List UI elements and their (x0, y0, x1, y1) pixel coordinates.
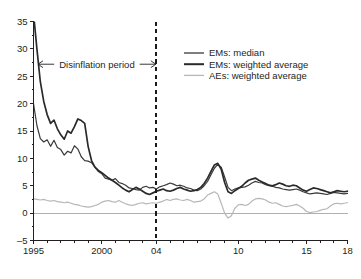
x-tick-label: 18 (342, 245, 353, 256)
x-tick-label: 15 (301, 245, 312, 256)
y-tick-label: 30 (17, 43, 28, 54)
x-tick-label: 2000 (91, 245, 112, 256)
y-tick-label: 20 (17, 98, 28, 109)
x-tick-label: 04 (151, 245, 162, 256)
disinflation-period-label: Disinflation period (59, 59, 135, 70)
chart-background (0, 0, 361, 279)
line-chart: 35302520151050–5 1995200004101518 Disinf… (0, 0, 361, 279)
y-tick-label: 35 (17, 16, 28, 27)
y-tick-label: 5 (22, 180, 27, 191)
legend-label: AEs: weighted average (209, 70, 307, 81)
chart-container: 35302520151050–5 1995200004101518 Disinf… (0, 0, 361, 279)
x-tick-label: 10 (233, 245, 244, 256)
legend-label: EMs: weighted average (209, 59, 308, 70)
x-tick-label: 1995 (23, 245, 44, 256)
legend-label: EMs: median (209, 47, 264, 58)
y-tick-label: 0 (22, 207, 27, 218)
y-tick-label: 25 (17, 71, 28, 82)
y-tick-label: 10 (17, 153, 28, 164)
y-tick-label: 15 (17, 125, 28, 136)
